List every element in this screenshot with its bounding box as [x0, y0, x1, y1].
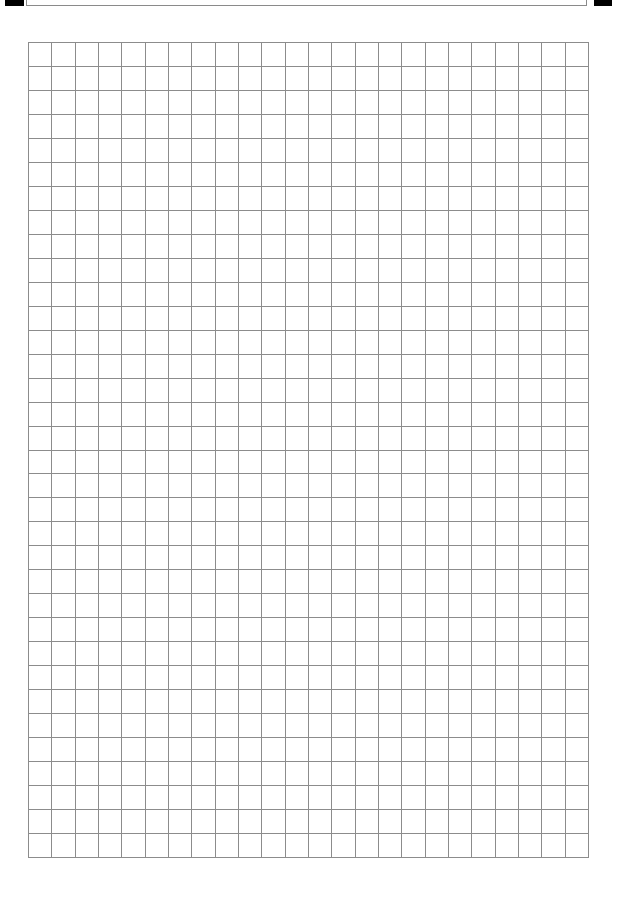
registration-mark-left	[5, 0, 24, 6]
header-box	[26, 0, 587, 6]
registration-mark-right	[594, 0, 612, 6]
graph-paper-grid	[28, 42, 589, 858]
grid-lines	[28, 42, 589, 858]
